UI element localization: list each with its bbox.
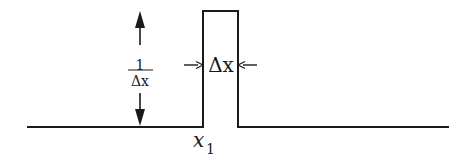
position-label-base: x bbox=[193, 128, 204, 152]
width-label: Δx bbox=[208, 53, 234, 77]
position-label-subscript: 1 bbox=[206, 141, 215, 157]
height-label-numerator: 1 bbox=[136, 57, 145, 73]
height-label-denominator: Δx bbox=[131, 73, 149, 89]
height-arrow-up-icon bbox=[135, 11, 145, 45]
width-arrow-left-icon bbox=[184, 62, 203, 69]
pulse-waveform bbox=[27, 11, 449, 127]
position-label: x 1 bbox=[193, 128, 215, 157]
pulse-diagram: 1 Δx Δx x 1 bbox=[0, 0, 474, 158]
height-arrow-down-icon bbox=[135, 93, 145, 126]
width-arrow-right-icon bbox=[238, 62, 257, 69]
height-label: 1 Δx bbox=[128, 57, 153, 89]
